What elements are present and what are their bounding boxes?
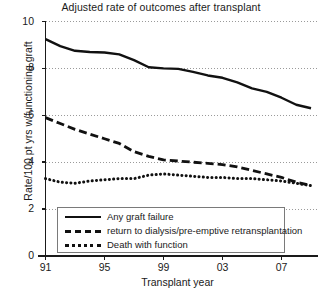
chart-container: Adjusted rate of outcomes after transpla… [0,0,322,294]
legend-item-return-to-dialysis: return to dialysis/pre-emptive retranspl… [65,224,302,238]
legend-label: Death with function [107,240,188,250]
x-tick-label: 91 [34,261,58,273]
x-tick-label: 95 [93,261,117,273]
series-line-0 [46,39,312,108]
legend-swatch-dashed-icon [65,226,101,236]
x-tick-label: 07 [270,261,294,273]
y-tick-label: 6 [8,108,34,120]
legend-label: Any graft failure [107,212,174,222]
y-tick-label: 10 [8,15,34,27]
x-tick-label: 03 [211,261,235,273]
legend-label: return to dialysis/pre-emptive retranspl… [107,226,302,236]
x-axis-label: Transplant year [45,276,310,288]
legend: Any graft failure return to dialysis/pre… [57,207,285,253]
x-tick-label: 99 [152,261,176,273]
y-tick-label: 0 [8,249,34,261]
legend-swatch-solid-icon [65,212,101,222]
y-tick-label: 4 [8,155,34,167]
y-tick-label: 2 [8,202,34,214]
legend-item-death-with-function: Death with function [65,238,188,252]
legend-swatch-dotted-icon [65,240,101,250]
legend-item-any-graft-failure: Any graft failure [65,210,174,224]
y-tick-label: 8 [8,61,34,73]
data-series [46,39,312,186]
